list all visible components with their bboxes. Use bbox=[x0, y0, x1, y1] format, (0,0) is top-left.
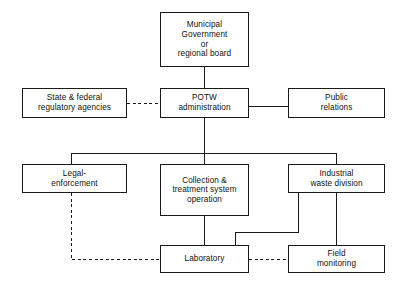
node-label-laboratory: Laboratory bbox=[183, 254, 227, 264]
node-laboratory[interactable]: Laboratory bbox=[160, 245, 249, 273]
node-legal-enforcement[interactable]: Legal- enforcement bbox=[22, 164, 127, 193]
node-label-public-relations: Public relations bbox=[319, 93, 355, 112]
node-field-monitoring[interactable]: Field monitoring bbox=[288, 245, 385, 273]
node-label-state-federal-regulatory-agencies: State & federal regulatory agencies bbox=[36, 93, 113, 112]
node-collection-treatment-system-operation[interactable]: Collection & treatment system operation bbox=[160, 164, 249, 216]
node-potw-administration[interactable]: POTW administration bbox=[160, 88, 249, 118]
node-public-relations[interactable]: Public relations bbox=[288, 88, 385, 118]
node-label-legal-enforcement: Legal- enforcement bbox=[49, 169, 99, 188]
node-label-potw-administration: POTW administration bbox=[176, 93, 232, 112]
node-municipal-government[interactable]: Municipal Government or regional board bbox=[160, 12, 249, 67]
org-chart-canvas: Municipal Government or regional board S… bbox=[0, 0, 407, 289]
connector-legal-enforcement-to-laboratory bbox=[71, 193, 160, 259]
node-state-federal-regulatory-agencies[interactable]: State & federal regulatory agencies bbox=[22, 88, 127, 118]
node-label-collection-treatment-system-operation: Collection & treatment system operation bbox=[170, 176, 238, 205]
node-label-field-monitoring: Field monitoring bbox=[315, 249, 358, 268]
node-industrial-waste-division[interactable]: Industrial waste division bbox=[288, 164, 385, 193]
node-label-municipal-government: Municipal Government or regional board bbox=[176, 20, 234, 58]
node-label-industrial-waste-division: Industrial waste division bbox=[308, 169, 364, 188]
